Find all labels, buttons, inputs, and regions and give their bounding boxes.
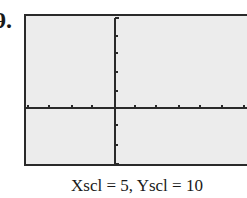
problem-number: 9. bbox=[0, 8, 12, 32]
calculator-screen bbox=[24, 14, 247, 166]
axes-plot bbox=[26, 16, 247, 168]
window-settings-caption: Xscl = 5, Yscl = 10 bbox=[0, 177, 247, 195]
y-axis bbox=[115, 18, 119, 164]
x-axis bbox=[26, 105, 247, 108]
